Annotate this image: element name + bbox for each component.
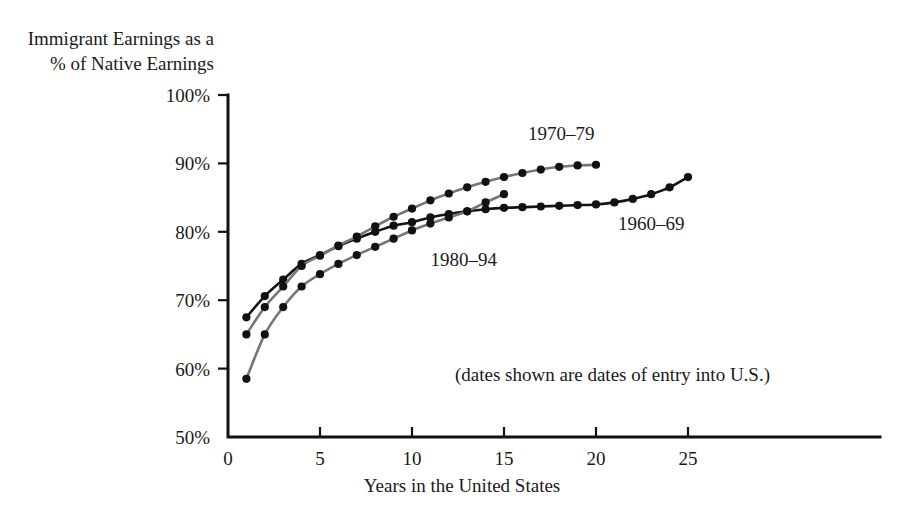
data-point-1960-69-25 bbox=[684, 173, 692, 181]
x-tick-label-25: 25 bbox=[679, 448, 698, 469]
data-point-1980-94-10 bbox=[408, 226, 416, 234]
data-point-1970-79-6 bbox=[334, 241, 342, 249]
data-point-1960-69-19 bbox=[574, 201, 582, 209]
data-point-1970-79-2 bbox=[261, 303, 269, 311]
data-point-1960-69-17 bbox=[537, 202, 545, 210]
data-point-1960-69-24 bbox=[666, 183, 674, 191]
data-point-1980-94-5 bbox=[316, 270, 324, 278]
data-point-1970-79-12 bbox=[445, 189, 453, 197]
data-point-1980-94-15 bbox=[500, 190, 508, 198]
data-point-1970-79-14 bbox=[482, 178, 490, 186]
x-tick-label-20: 20 bbox=[587, 448, 606, 469]
data-point-1960-69-2 bbox=[261, 292, 269, 300]
data-point-1970-79-3 bbox=[279, 282, 287, 290]
data-point-1970-79-18 bbox=[555, 163, 563, 171]
data-point-1970-79-16 bbox=[518, 169, 526, 177]
data-point-1960-69-22 bbox=[629, 195, 637, 203]
series-line-1970-79 bbox=[246, 165, 596, 335]
chart-note: (dates shown are dates of entry into U.S… bbox=[455, 364, 770, 386]
y-axis-title-line-2: % of Native Earnings bbox=[50, 53, 214, 74]
y-tick-label-90: 90% bbox=[175, 153, 210, 174]
data-point-1960-69-18 bbox=[555, 202, 563, 210]
axes bbox=[228, 95, 880, 437]
series-label-1960-69: 1960–69 bbox=[618, 213, 685, 234]
data-point-1970-79-20 bbox=[592, 161, 600, 169]
x-tick-label-0: 0 bbox=[223, 448, 233, 469]
data-point-1970-79-9 bbox=[390, 213, 398, 221]
data-point-1980-94-8 bbox=[371, 243, 379, 251]
series-1970-79 bbox=[242, 161, 600, 339]
data-point-1970-79-5 bbox=[316, 252, 324, 260]
x-tick-label-5: 5 bbox=[315, 448, 325, 469]
y-tick-label-50: 50% bbox=[175, 427, 210, 448]
data-series bbox=[242, 161, 692, 383]
x-tick-labels: 0510152025 bbox=[223, 448, 697, 469]
data-point-1970-79-1 bbox=[242, 330, 250, 338]
data-point-1980-94-4 bbox=[298, 282, 306, 290]
data-point-1960-69-20 bbox=[592, 200, 600, 208]
data-point-1960-69-16 bbox=[518, 203, 526, 211]
data-point-1970-79-10 bbox=[408, 204, 416, 212]
data-point-1980-94-3 bbox=[279, 303, 287, 311]
x-tick-label-15: 15 bbox=[495, 448, 514, 469]
data-point-1960-69-21 bbox=[610, 198, 618, 206]
data-point-1970-79-7 bbox=[353, 232, 361, 240]
axis-lines bbox=[228, 95, 880, 437]
y-tick-labels: 50%60%70%80%90%100% bbox=[166, 85, 211, 448]
y-tick-label-80: 80% bbox=[175, 222, 210, 243]
data-point-1980-94-2 bbox=[261, 330, 269, 338]
series-line-1960-69 bbox=[246, 177, 688, 317]
x-tick-label-10: 10 bbox=[403, 448, 422, 469]
data-point-1970-79-8 bbox=[371, 222, 379, 230]
data-point-1980-94-12 bbox=[445, 213, 453, 221]
data-point-1980-94-11 bbox=[426, 219, 434, 227]
data-point-1980-94-7 bbox=[353, 251, 361, 259]
data-point-1960-69-15 bbox=[500, 204, 508, 212]
data-point-1970-79-15 bbox=[500, 173, 508, 181]
data-point-1960-69-1 bbox=[242, 313, 250, 321]
data-point-1970-79-4 bbox=[298, 262, 306, 270]
x-axis-label: Years in the United States bbox=[364, 475, 561, 496]
data-point-1960-69-9 bbox=[390, 222, 398, 230]
data-point-1960-69-10 bbox=[408, 218, 416, 226]
y-axis-title-line-1: Immigrant Earnings as a bbox=[28, 28, 215, 49]
series-label-1980-94: 1980–94 bbox=[430, 249, 497, 270]
y-tick-label-100: 100% bbox=[166, 85, 211, 106]
data-point-1980-94-9 bbox=[390, 235, 398, 243]
data-point-1970-79-11 bbox=[426, 196, 434, 204]
y-tick-label-70: 70% bbox=[175, 290, 210, 311]
immigrant-earnings-line-chart: Immigrant Earnings as a % of Native Earn… bbox=[0, 0, 901, 523]
series-1960-69 bbox=[242, 173, 692, 321]
data-point-1980-94-14 bbox=[482, 198, 490, 206]
data-point-1970-79-19 bbox=[574, 161, 582, 169]
y-tick-label-60: 60% bbox=[175, 359, 210, 380]
data-point-1970-79-17 bbox=[537, 165, 545, 173]
y-axis-title: Immigrant Earnings as a % of Native Earn… bbox=[28, 28, 215, 74]
chart-container: Immigrant Earnings as a % of Native Earn… bbox=[0, 0, 901, 523]
series-label-1970-79: 1970–79 bbox=[528, 123, 595, 144]
data-point-1960-69-23 bbox=[647, 190, 655, 198]
data-point-1980-94-13 bbox=[463, 207, 471, 215]
data-point-1980-94-1 bbox=[242, 375, 250, 383]
data-point-1980-94-6 bbox=[334, 260, 342, 268]
data-point-1970-79-13 bbox=[463, 183, 471, 191]
